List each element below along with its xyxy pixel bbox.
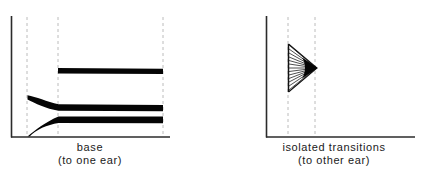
caption-isolated-transitions: isolated transitions (to other ear) [244,141,424,167]
caption-base-line2: (to one ear) [0,154,180,167]
caption-isolated-transitions-line2: (to other ear) [244,154,424,167]
panel-isolated-transitions [266,16,415,138]
band-f1-with-falling-transition [28,116,164,136]
caption-base: base (to one ear) [0,141,180,167]
band-f2-with-rising-transition [28,95,164,111]
band-f3 [58,68,163,74]
schematic-spectrogram-figure: base (to one ear) isolated transitions (… [0,0,424,184]
panel-base [11,16,170,138]
caption-isolated-transitions-line1: isolated transitions [282,141,385,153]
dashed-guides-right [288,17,315,136]
caption-base-line1: base [77,141,103,153]
